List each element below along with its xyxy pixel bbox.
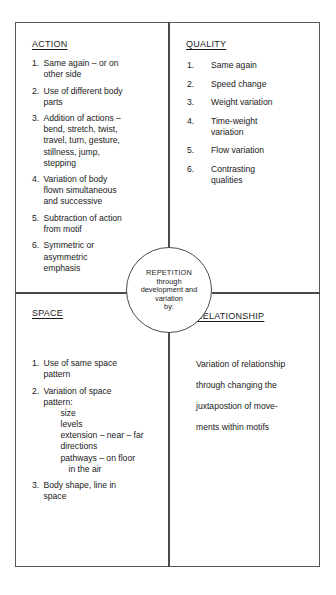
list-item-line: asymmetric	[44, 252, 88, 262]
quadrant-action-heading: ACTION	[32, 39, 168, 49]
list-item-number: 6.	[187, 164, 194, 175]
list-item-line: stillness, jump,	[44, 147, 100, 157]
list-item: 6.Contrastingqualities	[187, 164, 313, 186]
relationship-line: juxtapostion of move-	[196, 396, 312, 417]
center-circle-repetition: REPETITIONthroughdevelopment andvariatio…	[126, 247, 212, 333]
quadrant-action: ACTION 1.Same again – or onother side2.U…	[16, 23, 168, 292]
quadrant-relationship: RELATIONSHIP Variation of relationshipth…	[170, 294, 319, 566]
list-item-line: Use of different body	[44, 86, 123, 96]
quadrant-space: SPACE 1.Use of same spacepattern2.Variat…	[16, 294, 168, 566]
list-item-line: Variation of body	[44, 174, 108, 184]
list-item: 1.Same again	[187, 60, 313, 71]
center-circle-line: by:	[164, 303, 174, 312]
list-item-line: variation	[211, 127, 243, 137]
list-item: 2.Speed change	[187, 79, 313, 90]
list-item-line: space	[44, 491, 67, 501]
list-item: 1.Use of same spacepattern	[32, 358, 160, 380]
list-item-line: Contrasting	[211, 164, 255, 174]
list-item-line: Weight variation	[211, 97, 272, 107]
list-item-number: 2.	[32, 386, 39, 397]
relationship-line: Variation of relationship	[196, 354, 312, 375]
list-item-line: parts	[44, 97, 63, 107]
list-item: 2.Variation of spacepattern:sizelevelsex…	[32, 386, 160, 475]
list-item-line: from motif	[44, 224, 82, 234]
list-item-number: 3.	[32, 113, 39, 124]
quadrant-relationship-heading: RELATIONSHIP	[196, 311, 319, 321]
quadrant-quality: QUALITY 1.Same again2.Speed change3.Weig…	[170, 23, 319, 292]
quality-item-list: 1.Same again2.Speed change3.Weight varia…	[187, 60, 313, 186]
list-item-line: Body shape, line in	[44, 480, 117, 490]
list-item-line: Symmetric or	[44, 240, 95, 250]
list-item-line: Same again	[211, 60, 257, 70]
list-item-number: 4.	[32, 174, 39, 185]
list-item-number: 3.	[32, 480, 39, 491]
sub-list-item: extension – near – far	[61, 430, 161, 441]
list-item-number: 2.	[32, 86, 39, 97]
sub-item-list: sizelevelsextension – near – fardirectio…	[61, 408, 161, 475]
list-item-line: other side	[44, 69, 82, 79]
list-item-number: 4.	[187, 116, 194, 127]
list-item: 2.Use of different bodyparts	[32, 86, 156, 108]
list-item-number: 1.	[32, 358, 39, 369]
action-item-list: 1.Same again – or onother side2.Use of d…	[32, 58, 156, 274]
list-item-number: 1.	[32, 58, 39, 69]
relationship-line: ments within motifs	[196, 417, 312, 438]
sub-list-item: pathways – on floor	[61, 453, 161, 464]
list-item-line: Time-weight	[211, 116, 257, 126]
relationship-body-text: Variation of relationshipthrough changin…	[196, 354, 312, 438]
list-item-line: and successive	[44, 196, 103, 206]
list-item-number: 3.	[187, 97, 194, 108]
list-item-line: flown simultaneous	[44, 185, 117, 195]
list-item-line: qualities	[211, 175, 243, 185]
list-item-line: Same again – or on	[44, 58, 119, 68]
sub-list-item: directions	[61, 441, 161, 452]
sub-list-item: in the air	[61, 464, 161, 475]
relationship-line: through changing the	[196, 375, 312, 396]
quadrant-quality-heading: QUALITY	[186, 39, 319, 49]
list-item-line: pattern:	[44, 397, 73, 407]
list-item-line: Subtraction of action	[44, 213, 122, 223]
list-item-line: pattern	[44, 369, 71, 379]
space-item-list: 1.Use of same spacepattern2.Variation of…	[32, 358, 160, 502]
list-item-number: 2.	[187, 79, 194, 90]
list-item-number: 1.	[187, 60, 194, 71]
list-item-line: Speed change	[211, 79, 266, 89]
sub-list-item: levels	[61, 419, 161, 430]
list-item: 3.Addition of actions –bend, stretch, tw…	[32, 113, 156, 169]
list-item-line: Variation of space	[44, 386, 112, 396]
list-item: 4.Variation of bodyflown simultaneousand…	[32, 174, 156, 208]
sub-list-item: size	[61, 408, 161, 419]
list-item: 4.Time-weightvariation	[187, 116, 313, 138]
list-item: 3.Weight variation	[187, 97, 313, 108]
list-item-line: travel, turn, gesture,	[44, 135, 120, 145]
list-item-line: Addition of actions –	[44, 113, 121, 123]
list-item: 5.Flow variation	[187, 145, 313, 156]
list-item-line: emphasis	[44, 263, 81, 273]
list-item: 3.Body shape, line inspace	[32, 480, 160, 502]
list-item: 5.Subtraction of actionfrom motif	[32, 213, 156, 235]
list-item-number: 5.	[32, 213, 39, 224]
list-item-number: 6.	[32, 240, 39, 251]
list-item-number: 5.	[187, 145, 194, 156]
list-item: 1.Same again – or onother side	[32, 58, 156, 80]
list-item-line: bend, stretch, twist,	[44, 124, 118, 134]
list-item-line: Use of same space	[44, 358, 118, 368]
list-item-line: stepping	[44, 158, 77, 168]
list-item-line: Flow variation	[211, 145, 264, 155]
